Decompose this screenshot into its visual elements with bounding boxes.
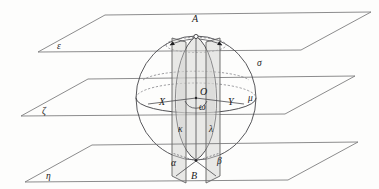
label-sigma: σ [257, 58, 262, 68]
label-B: B [191, 170, 197, 181]
label-lambda: λ [208, 124, 213, 134]
point-A-marker [194, 34, 198, 38]
label-X: X [158, 96, 166, 107]
label-beta: β [216, 156, 222, 166]
label-plane-epsilon: ε [57, 41, 61, 51]
figure-canvas: A B O X Y σ κ λ μ ω α β ε ζ η [0, 0, 379, 189]
center-point-marker [195, 97, 197, 99]
label-plane-eta: η [46, 171, 51, 181]
label-O: O [200, 86, 207, 97]
label-kappa: κ [178, 124, 183, 134]
label-mu: μ [247, 93, 253, 103]
label-omega: ω [199, 102, 206, 112]
geometry-figure: A B O X Y σ κ λ μ ω α β ε ζ η [0, 0, 379, 189]
label-A: A [191, 13, 199, 24]
